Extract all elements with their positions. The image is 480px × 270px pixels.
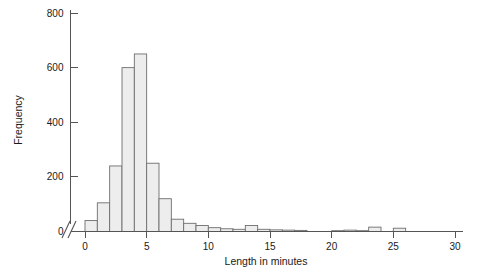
x-axis-tick-label: 15 bbox=[264, 241, 276, 252]
x-axis-title: Length in minutes bbox=[225, 255, 308, 267]
y-ticks-group: 0200400600800 bbox=[47, 8, 78, 238]
y-axis-tick-label: 400 bbox=[47, 117, 64, 128]
histogram-figure: 0200400600800 051015202530 Frequency Len… bbox=[0, 0, 480, 270]
histogram-bar bbox=[171, 219, 183, 231]
histogram-bar bbox=[245, 225, 257, 231]
histogram-bar bbox=[369, 227, 381, 231]
x-axis-tick-label: 10 bbox=[203, 241, 215, 252]
histogram-bar bbox=[110, 166, 122, 232]
histogram-bar bbox=[147, 163, 159, 231]
x-axis-tick-label: 0 bbox=[82, 241, 88, 252]
histogram-bar bbox=[159, 199, 171, 232]
histogram-canvas: 0200400600800 051015202530 Frequency Len… bbox=[0, 0, 480, 270]
histogram-bar bbox=[85, 221, 97, 232]
x-axis-tick-label: 25 bbox=[388, 241, 400, 252]
histogram-bar bbox=[134, 54, 146, 232]
y-axis-tick-label: 600 bbox=[47, 62, 64, 73]
x-axis-tick-label: 30 bbox=[449, 241, 461, 252]
x-ticks-group: 051015202530 bbox=[82, 232, 461, 252]
axis-break-icon bbox=[62, 221, 76, 238]
bars-group bbox=[85, 54, 406, 232]
x-axis-tick-label: 5 bbox=[144, 241, 150, 252]
y-axis-tick-label: 200 bbox=[47, 171, 64, 182]
x-axis-tick-label: 20 bbox=[326, 241, 338, 252]
y-axis-tick-label: 800 bbox=[47, 8, 64, 19]
histogram-bar bbox=[184, 223, 196, 231]
histogram-bar bbox=[196, 225, 208, 231]
histogram-bar bbox=[208, 228, 220, 232]
histogram-bar bbox=[97, 203, 109, 232]
y-axis-tick-label: 0 bbox=[58, 226, 64, 237]
y-axis-title: Frequency bbox=[12, 94, 24, 144]
histogram-bar bbox=[122, 68, 134, 232]
